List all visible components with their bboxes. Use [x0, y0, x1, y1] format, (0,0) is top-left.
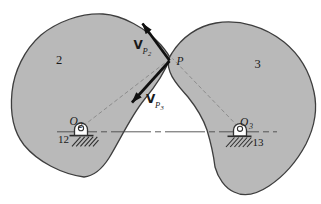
ground-link-13-label: 13 — [253, 136, 265, 148]
body-3-label: 3 — [255, 57, 261, 71]
body-3-shape — [168, 22, 315, 194]
kinematics-figure-canvas: 2 3 P V P 2 V P 3 O 2 O 3 12 13 — [0, 0, 321, 204]
contacting-bodies-diagram: 2 3 P V P 2 V P 3 O 2 O 3 12 13 — [0, 0, 321, 204]
body-2-label: 2 — [56, 53, 62, 67]
ground-link-12-label: 12 — [58, 133, 69, 145]
vp3-vector-label: V P 3 — [146, 89, 165, 111]
contact-point-label: P — [176, 55, 184, 67]
